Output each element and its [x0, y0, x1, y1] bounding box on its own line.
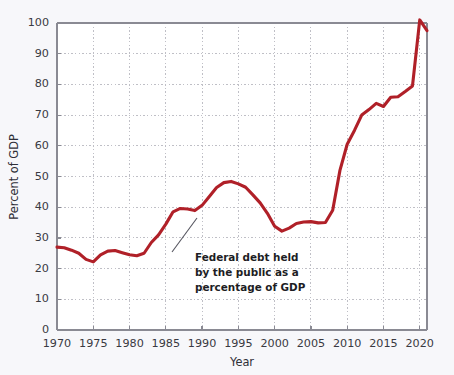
- line-chart: 0102030405060708090100 19701975198019851…: [0, 0, 454, 375]
- annotation-line-3: percentage of GDP: [195, 281, 306, 293]
- y-tick-label-20: 20: [35, 262, 49, 275]
- y-tick-label-0: 0: [42, 323, 49, 336]
- x-tick-label-2010: 2010: [333, 337, 361, 350]
- y-tick-label-60: 60: [35, 139, 49, 152]
- x-tick-label-1975: 1975: [79, 337, 107, 350]
- y-tick-label-50: 50: [35, 170, 49, 183]
- annotation-line-1: Federal debt held: [195, 251, 298, 263]
- y-tick-label-80: 80: [35, 77, 49, 90]
- x-tick-label-1980: 1980: [115, 337, 143, 350]
- x-axis-title: Year: [229, 355, 254, 369]
- y-tick-label-30: 30: [35, 231, 49, 244]
- x-tick-label-1985: 1985: [152, 337, 180, 350]
- y-tick-label-10: 10: [35, 292, 49, 305]
- x-tick-label-2020: 2020: [406, 337, 434, 350]
- y-axis-title: Percent of GDP: [7, 134, 21, 220]
- x-tick-label-1970: 1970: [43, 337, 71, 350]
- x-tick-label-2000: 2000: [260, 337, 288, 350]
- x-tick-label-2015: 2015: [369, 337, 397, 350]
- y-tick-label-90: 90: [35, 47, 49, 60]
- chart-figure: 0102030405060708090100 19701975198019851…: [0, 0, 454, 375]
- x-axis-tick-labels: 1970197519801985199019952000200520102015…: [43, 337, 434, 350]
- x-tick-label-1990: 1990: [188, 337, 216, 350]
- annotation-line-2: by the public as a: [195, 266, 299, 278]
- y-tick-label-40: 40: [35, 200, 49, 213]
- x-tick-label-1995: 1995: [224, 337, 252, 350]
- y-tick-label-70: 70: [35, 108, 49, 121]
- y-tick-label-100: 100: [28, 16, 49, 29]
- x-tick-label-2005: 2005: [297, 337, 325, 350]
